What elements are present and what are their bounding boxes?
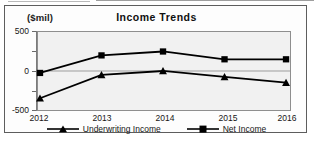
x-tick-label-2014: 2014 <box>156 113 175 123</box>
legend-label-underwriting-income: Underwriting Income <box>83 124 161 134</box>
y-tick-mark-0 <box>32 71 36 72</box>
x-tick-label-2013: 2013 <box>93 113 112 123</box>
scan-artifact-line <box>0 0 314 3</box>
x-tick-label-2016: 2016 <box>278 113 297 123</box>
chart-figure: ($mil) Income Trends 500 0 -500 2012 201… <box>4 5 307 133</box>
x-tick-label-2012: 2012 <box>30 113 49 123</box>
chart-title: Income Trends <box>5 11 308 23</box>
legend-label-net-income: Net Income <box>223 124 266 134</box>
scan-artifact-segment-left <box>8 1 90 2</box>
y-tick-mark-500 <box>32 31 36 32</box>
square-marker-icon <box>187 124 219 134</box>
y-tick-label-500: 500 <box>15 26 29 36</box>
series-layer <box>36 48 290 101</box>
series-underwriting-income <box>36 67 290 102</box>
y-axis: 500 0 -500 <box>5 31 35 111</box>
series-line <box>40 71 286 98</box>
scan-artifact-segment-right <box>96 0 314 1</box>
square-marker-icon <box>37 70 43 76</box>
y-tick-mark-250 <box>32 51 36 52</box>
y-tick-mark-neg250 <box>32 91 36 92</box>
triangle-marker-icon <box>47 124 79 134</box>
x-tick-label-2015: 2015 <box>219 113 238 123</box>
legend-item-net-income[interactable]: Net Income <box>187 124 266 134</box>
square-marker-icon <box>283 56 289 62</box>
plot-area <box>37 31 291 111</box>
square-marker-icon <box>221 56 227 62</box>
y-tick-label-0: 0 <box>24 66 29 76</box>
chart-legend: Underwriting Income Net Income <box>5 124 308 134</box>
y-tick-label-neg500: -500 <box>12 105 29 115</box>
y-tick-mark-neg500 <box>32 110 36 111</box>
legend-item-underwriting-income[interactable]: Underwriting Income <box>47 124 161 134</box>
chart-plot-svg <box>38 32 290 110</box>
square-marker-icon <box>160 48 166 54</box>
square-marker-icon <box>98 52 104 58</box>
